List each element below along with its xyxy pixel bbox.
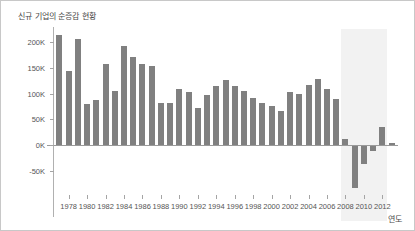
y-tick-label: 0K <box>36 141 45 150</box>
bar <box>333 99 339 145</box>
y-tick-mark <box>50 94 54 95</box>
zero-baseline <box>47 145 398 146</box>
x-tick-mark <box>290 195 291 199</box>
x-tick-mark <box>309 195 310 199</box>
bar <box>167 103 173 145</box>
x-tick-mark <box>124 195 125 199</box>
x-tick-label: 2002 <box>282 202 299 211</box>
bar <box>66 71 72 145</box>
bar <box>204 95 210 145</box>
x-tick-mark <box>179 195 180 199</box>
y-tick-label: 200K <box>27 37 45 46</box>
bar <box>352 145 358 187</box>
bar-series <box>53 29 398 197</box>
x-tick-mark <box>253 195 254 199</box>
bar <box>342 139 348 146</box>
y-tick-mark <box>50 68 54 69</box>
chart-title: 신규 기업의 순증감 현황 <box>18 10 96 21</box>
x-tick-label: 2010 <box>356 202 373 211</box>
bar <box>287 92 293 146</box>
bar <box>315 79 321 145</box>
x-tick-mark <box>87 195 88 199</box>
y-axis-line <box>53 27 54 217</box>
bar <box>259 103 265 145</box>
x-tick-label: 1994 <box>208 202 225 211</box>
bar <box>306 85 312 145</box>
x-tick-mark <box>216 195 217 199</box>
x-tick-label: 1988 <box>153 202 170 211</box>
bar <box>158 103 164 145</box>
x-tick-mark <box>198 195 199 199</box>
x-tick-label: 1980 <box>79 202 96 211</box>
y-tick-label: 150K <box>27 63 45 72</box>
x-tick-mark <box>69 195 70 199</box>
x-tick-mark <box>345 195 346 199</box>
bar <box>186 92 192 145</box>
bar <box>232 86 238 145</box>
x-tick-label: 2012 <box>374 202 391 211</box>
bar <box>121 46 127 146</box>
bar <box>149 66 155 146</box>
y-tick-mark <box>50 171 54 172</box>
bar <box>241 91 247 146</box>
bar <box>93 100 99 145</box>
bar <box>296 94 302 145</box>
y-tick-mark <box>50 145 54 146</box>
y-tick-label: 100K <box>27 89 45 98</box>
x-tick-label: 1992 <box>189 202 206 211</box>
bar <box>324 89 330 145</box>
bar <box>75 39 81 145</box>
bar <box>195 108 201 145</box>
bar <box>361 145 367 164</box>
bar <box>56 35 62 145</box>
x-tick-label: 2006 <box>319 202 336 211</box>
chart-figure: 신규 기업의 순증감 현황 200K150K100K50K0K-50K 1978… <box>0 0 415 231</box>
bar <box>139 64 145 146</box>
x-tick-mark <box>106 195 107 199</box>
bar <box>103 64 109 146</box>
x-tick-label: 1978 <box>60 202 77 211</box>
x-tick-label: 1990 <box>171 202 188 211</box>
x-tick-label: 1982 <box>97 202 114 211</box>
x-tick-label: 1984 <box>116 202 133 211</box>
x-tick-label: 1996 <box>226 202 243 211</box>
bar <box>130 57 136 145</box>
y-tick-mark <box>50 42 54 43</box>
x-tick-label: 2008 <box>337 202 354 211</box>
bar <box>223 80 229 145</box>
bar <box>250 98 256 146</box>
x-tick-mark <box>235 195 236 199</box>
bar <box>278 111 284 145</box>
bar <box>176 89 182 145</box>
y-tick-label: 50K <box>32 115 45 124</box>
x-tick-label: 1998 <box>245 202 262 211</box>
x-tick-label: 2000 <box>263 202 280 211</box>
bar <box>379 127 385 145</box>
bar <box>84 104 90 145</box>
bar <box>112 91 118 145</box>
x-tick-mark <box>272 195 273 199</box>
x-tick-label: 1986 <box>134 202 151 211</box>
x-tick-mark <box>364 195 365 199</box>
bar <box>213 86 219 145</box>
x-tick-mark <box>327 195 328 199</box>
bar <box>269 106 275 145</box>
x-tick-mark <box>161 195 162 199</box>
x-axis-label: 연도 <box>388 213 402 224</box>
plot-area <box>53 29 398 197</box>
x-tick-mark <box>142 195 143 199</box>
y-tick-mark <box>50 119 54 120</box>
x-tick-label: 2004 <box>300 202 317 211</box>
x-tick-mark <box>382 195 383 199</box>
y-tick-label: -50K <box>29 167 45 176</box>
